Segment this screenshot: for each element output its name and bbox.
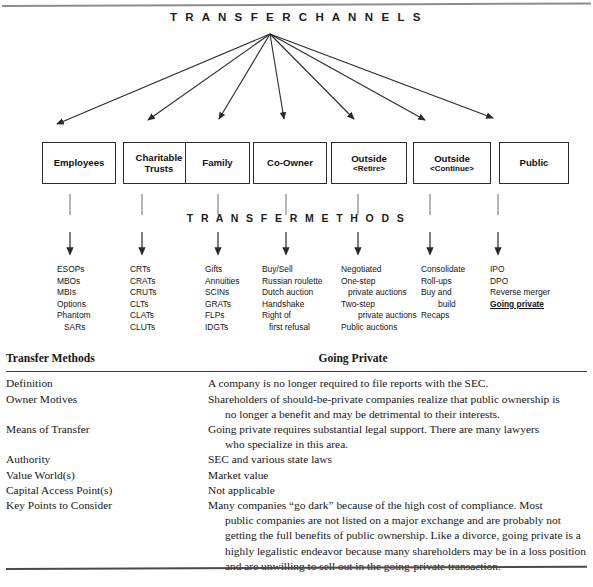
row-value-continuation: public companies are not listed on a maj…: [208, 513, 587, 574]
method-item: Russian roulette: [262, 276, 323, 288]
method-item: CLTs: [130, 299, 157, 311]
channel-sublabel: Trusts: [136, 163, 183, 174]
channel-sublabel: <Retire>: [351, 164, 387, 173]
row-label: Key Points to Consider: [6, 498, 112, 513]
row-label: Capital Access Point(s): [6, 483, 112, 498]
row-value: Not applicable: [208, 483, 587, 498]
method-item: SARs: [57, 322, 91, 334]
method-item: Handshake: [262, 299, 323, 311]
channel-box-outside-retire[interactable]: Outside <Retire>: [331, 142, 407, 184]
method-item: Roll-ups: [421, 276, 465, 288]
row-value-text: Market value: [208, 469, 268, 481]
methods-column-co-owner: Buy/Sell Russian roulette Dutch auction …: [262, 264, 323, 333]
method-item-highlighted: Going private: [490, 299, 550, 311]
row-label: Value World(s): [6, 468, 75, 483]
method-item: CLATs: [130, 310, 157, 322]
method-item: ESOPs: [57, 264, 91, 276]
methods-column-public: IPO DPO Reverse merger Going private: [490, 264, 550, 310]
method-item: CRATs: [130, 276, 157, 288]
method-item: DPO: [490, 276, 550, 288]
method-item: SCINs: [205, 287, 239, 299]
channel-label: Co-Owner: [267, 157, 313, 168]
row-value-text: A company is no longer required to file …: [208, 377, 488, 389]
table-row: Authority SEC and various state laws: [6, 452, 587, 467]
table-header-going-private: Going Private: [208, 352, 498, 365]
method-item: Two-step: [341, 299, 417, 311]
method-item: Dutch auction: [262, 287, 323, 299]
row-value-text: Many companies “go dark” because of the …: [208, 499, 543, 511]
row-label: Means of Transfer: [6, 422, 90, 437]
method-item: CLUTs: [130, 322, 157, 334]
method-item: Recaps: [421, 310, 465, 322]
row-value: Shareholders of should-be-private compan…: [208, 392, 587, 422]
table-header-row: Transfer Methods Going Private: [6, 352, 587, 369]
row-value: A company is no longer required to file …: [208, 376, 587, 391]
table-body: Definition A company is no longer requir…: [6, 372, 587, 574]
transfer-channel-arrow-fan: [0, 0, 593, 135]
method-item: Reverse merger: [490, 287, 550, 299]
method-item: first refusal: [262, 322, 323, 334]
method-item: MBOs: [57, 276, 91, 288]
row-value-continuation: no longer a benefit and may be detriment…: [208, 407, 587, 422]
method-item: MBIs: [57, 287, 91, 299]
row-value: SEC and various state laws: [208, 452, 587, 467]
table-row: Value World(s) Market value: [6, 468, 587, 483]
table-row: Definition A company is no longer requir…: [6, 376, 587, 391]
channel-box-co-owner[interactable]: Co-Owner: [253, 142, 327, 184]
row-value: Many companies “go dark” because of the …: [208, 498, 587, 574]
table-row: Capital Access Point(s) Not applicable: [6, 483, 587, 498]
channel-box-outside-continue[interactable]: Outside <Continue>: [413, 142, 491, 184]
channel-sublabel: <Continue>: [430, 164, 474, 173]
method-item: Annuities: [205, 276, 239, 288]
method-item: Options: [57, 299, 91, 311]
row-value: Market value: [208, 468, 587, 483]
method-item: Buy/Sell: [262, 264, 323, 276]
method-item: IDGTs: [205, 322, 239, 334]
method-item: One-step: [341, 276, 417, 288]
methods-column-charitable-trusts: CRTs CRATs CRUTs CLTs CLATs CLUTs: [130, 264, 157, 333]
channel-label: Employees: [54, 157, 105, 168]
row-value-continuation: who specialize in this area.: [208, 437, 587, 452]
method-item: Gifts: [205, 264, 239, 276]
methods-column-family: Gifts Annuities SCINs GRATs FLPs IDGTs: [205, 264, 239, 333]
row-value-text: SEC and various state laws: [208, 453, 332, 465]
row-value-text: Not applicable: [208, 484, 275, 496]
method-item: CRUTs: [130, 287, 157, 299]
channel-label: Outside: [351, 153, 387, 164]
page-root: T R A N S F E R C H A N N E L S Employee…: [0, 0, 593, 587]
channel-label: Charitable: [136, 152, 183, 163]
channel-label: Public: [520, 157, 549, 168]
transfer-methods-columns: ESOPs MBOs MBIs Options Phantom SARs CRT…: [0, 264, 593, 344]
method-item: Negotiated: [341, 264, 417, 276]
row-label: Owner Motives: [6, 392, 77, 407]
row-value-text: Shareholders of should-be-private compan…: [208, 393, 560, 405]
method-item: GRATs: [205, 299, 239, 311]
method-item: Buy and: [421, 287, 465, 299]
table-row: Owner Motives Shareholders of should-be-…: [6, 392, 587, 422]
row-value: Going private requires substantial legal…: [208, 422, 587, 452]
method-item: private auctions: [341, 310, 417, 322]
channel-box-public[interactable]: Public: [499, 142, 569, 184]
transfer-method-connectors: [0, 186, 593, 266]
row-label: Authority: [6, 452, 50, 467]
method-item: Consolidate: [421, 264, 465, 276]
channel-box-employees[interactable]: Employees: [42, 142, 116, 184]
channel-label: Outside: [430, 153, 474, 164]
channel-box-row: Employees Charitable Trusts Family Co-Ow…: [0, 142, 593, 186]
table-row: Means of Transfer Going private requires…: [6, 422, 587, 452]
method-item: IPO: [490, 264, 550, 276]
method-item: Phantom: [57, 310, 91, 322]
channel-label: Family: [202, 157, 232, 168]
methods-column-employees: ESOPs MBOs MBIs Options Phantom SARs: [57, 264, 91, 333]
methods-column-outside-continue: Consolidate Roll-ups Buy and build Recap…: [421, 264, 465, 322]
channel-box-family[interactable]: Family: [185, 142, 250, 184]
going-private-table: Transfer Methods Going Private Definitio…: [6, 352, 587, 574]
method-item: build: [421, 299, 465, 311]
methods-column-outside-retire: Negotiated One-step private auctions Two…: [341, 264, 417, 333]
method-item: private auctions: [341, 287, 417, 299]
table-header-transfer-methods: Transfer Methods: [6, 352, 95, 365]
method-item: FLPs: [205, 310, 239, 322]
row-value-text: Going private requires substantial legal…: [208, 423, 539, 435]
table-row: Key Points to Consider Many companies “g…: [6, 498, 587, 574]
method-item: CRTs: [130, 264, 157, 276]
